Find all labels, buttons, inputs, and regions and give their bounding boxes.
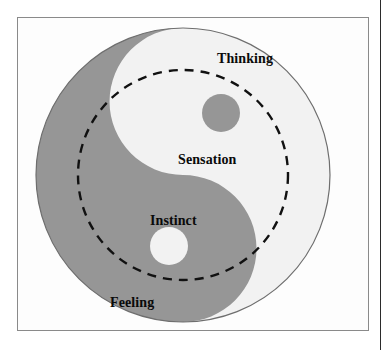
label-feeling: Feeling bbox=[110, 295, 154, 311]
taijitu-diagram bbox=[18, 18, 368, 330]
page-edge-rule bbox=[380, 0, 381, 350]
light-eye-circle bbox=[150, 227, 188, 265]
label-instinct: Instinct bbox=[150, 213, 197, 229]
label-thinking: Thinking bbox=[217, 51, 273, 67]
figure-frame-box: Thinking Sensation Instinct Feeling bbox=[17, 17, 369, 331]
label-sensation: Sensation bbox=[178, 152, 236, 168]
dark-eye-circle bbox=[202, 94, 240, 132]
figure-root: Thinking Sensation Instinct Feeling bbox=[0, 0, 392, 350]
